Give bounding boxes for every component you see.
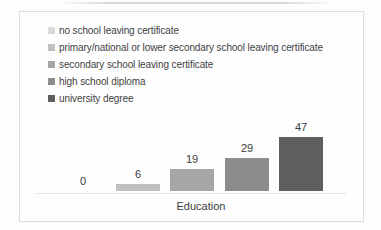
bar-group: 29 (225, 143, 269, 191)
bar-chart-screenshot: no school leaving certificate primary/na… (0, 0, 381, 230)
bar-rect (170, 169, 214, 191)
bar-rect (225, 158, 269, 191)
chart-panel: no school leaving certificate primary/na… (19, 11, 364, 222)
bar-group: 0 (61, 176, 105, 191)
bar-value-label: 19 (186, 154, 198, 165)
scan-artifact-line (58, 2, 334, 4)
bar-group: 47 (279, 122, 323, 191)
x-axis-title: Education (36, 200, 366, 212)
bar-group: 6 (116, 169, 160, 191)
bar-value-label: 6 (135, 169, 141, 180)
plot-area: 0 6 19 29 47 Education (20, 12, 363, 221)
bar-rect (279, 137, 323, 191)
x-axis-line (36, 193, 346, 194)
bar-group: 19 (170, 154, 214, 191)
bar-value-label: 0 (80, 176, 86, 187)
bar-rect (116, 184, 160, 191)
bar-value-label: 29 (241, 143, 253, 154)
bar-value-label: 47 (295, 122, 307, 133)
